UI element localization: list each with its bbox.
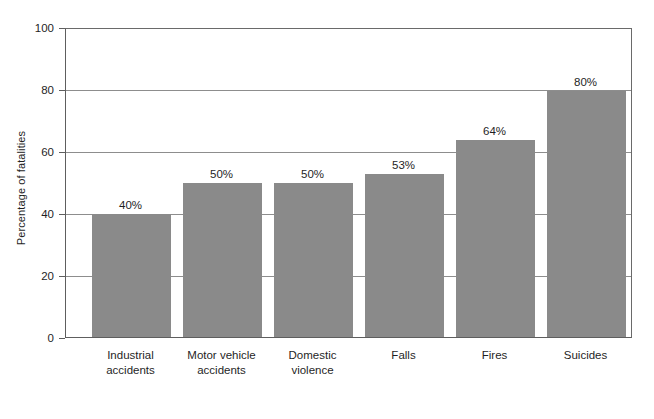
bar-domestic-violence (274, 183, 353, 337)
x-label-falls: Falls (354, 348, 453, 363)
y-tick-label-40: 40 (8, 208, 54, 220)
bar-fires (456, 140, 535, 337)
x-label-line-1: Falls (354, 348, 453, 363)
x-label-fires: Fires (445, 348, 544, 363)
x-label-line-1: Domestic (263, 348, 362, 363)
bar-industrial-accidents (92, 214, 171, 337)
x-label-line-1: Suicides (536, 348, 635, 363)
y-tick-label-20: 20 (8, 270, 54, 282)
x-label-line-2: accidents (167, 363, 276, 378)
y-tick-label-100: 100 (8, 22, 54, 34)
x-label-line-2: accidents (81, 363, 180, 378)
bar-suicides (547, 91, 626, 337)
x-label-line-1: Fires (445, 348, 544, 363)
x-label-line-2: violence (263, 363, 362, 378)
x-label-line-1: Motor vehicle (167, 348, 276, 363)
y-tick-label-60: 60 (8, 146, 54, 158)
x-label-industrial-accidents: Industrial accidents (81, 348, 180, 377)
y-tick-label-0: 0 (8, 332, 54, 344)
bar-falls (365, 174, 444, 337)
bar-motor-vehicle-accidents (183, 183, 262, 337)
x-label-line-1: Industrial (81, 348, 180, 363)
bar-value-domestic-violence: 50% (273, 168, 352, 180)
x-label-motor-vehicle-accidents: Motor vehicle accidents (167, 348, 276, 377)
y-tick-mark-0 (59, 338, 65, 339)
bar-value-suicides: 80% (546, 76, 625, 88)
y-tick-label-80: 80 (8, 84, 54, 96)
x-label-domestic-violence: Domestic violence (263, 348, 362, 377)
bar-value-falls: 53% (364, 159, 443, 171)
x-label-suicides: Suicides (536, 348, 635, 363)
bar-value-industrial-accidents: 40% (91, 199, 170, 211)
bar-value-fires: 64% (455, 125, 534, 137)
bar-chart: Percentage of fatalities 100 80 60 40 20… (0, 0, 654, 419)
plot-area (65, 28, 632, 338)
bar-value-motor-vehicle-accidents: 50% (182, 168, 261, 180)
y-axis-title: Percentage of fatalities (14, 28, 28, 348)
